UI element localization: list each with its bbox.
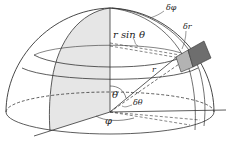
projection-upper-2 xyxy=(110,46,180,58)
delta-phi-leader xyxy=(150,11,164,18)
delta-r-label: δr xyxy=(183,23,192,31)
y-axis xyxy=(110,110,226,112)
theta-label: θ xyxy=(112,90,118,100)
delta-theta-label: δθ xyxy=(133,99,143,107)
spherical-coordinates-diagram: δφ r sin θ δr r θ δθ φ xyxy=(0,0,230,143)
projection-base-2 xyxy=(110,112,200,120)
meridian-plane-shading xyxy=(49,8,110,131)
hemisphere-drawing xyxy=(0,0,230,143)
phi-label: φ xyxy=(105,116,112,126)
phi-arc xyxy=(96,116,134,120)
r-sin-theta-label: r sin θ xyxy=(113,30,145,40)
projection-base-1 xyxy=(110,112,190,125)
projection-upper-1 xyxy=(110,43,180,55)
delta-theta-leader xyxy=(122,105,132,107)
delta-phi-label: δφ xyxy=(166,4,176,12)
radius-line-2 xyxy=(110,62,182,112)
radius-line-1 xyxy=(110,56,178,112)
r-label: r xyxy=(152,66,156,74)
delta-r-leader xyxy=(182,31,186,49)
